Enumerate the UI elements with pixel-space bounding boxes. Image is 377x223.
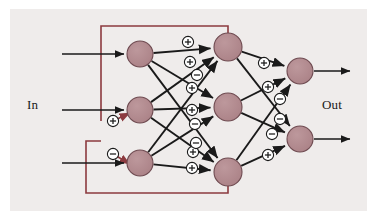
link-i3-h3 [153,164,210,170]
node-h1 [214,33,242,61]
node-i3 [127,150,153,176]
fb-sign-0 [107,115,118,126]
ho-sign-2 [262,81,273,92]
ih-sign-8 [186,162,197,173]
node-h2 [214,93,242,121]
fb-sign-1 [107,148,118,159]
ih-sign-4 [186,104,197,115]
ih-sign-7 [189,118,200,129]
ih-sign-6 [191,69,202,80]
ho-sign-4 [266,128,277,139]
ho-sign-0 [258,57,269,68]
link-i1-h1 [153,48,210,53]
input-label: In [27,97,38,113]
ho-sign-1 [274,93,285,104]
neural-network-diagram [0,0,377,223]
link-i3-h1 [148,61,217,152]
ih-sign-0 [182,36,193,47]
ho-sign-5 [262,149,273,160]
ih-sign-3 [184,56,195,67]
ho-sign-3 [274,113,285,124]
ih-sign-5 [190,137,201,148]
ih-sign-1 [186,82,197,93]
node-o2 [287,126,313,152]
figure-root: In Out [0,0,377,223]
input-arrow-group [62,54,124,163]
node-o1 [287,58,313,84]
output-label: Out [322,97,342,113]
node-i1 [127,41,153,67]
node-i2 [127,97,153,123]
node-h3 [214,158,242,186]
feedback-line-feedback-bottom [86,141,228,193]
input-hidden-link-group [148,48,217,170]
